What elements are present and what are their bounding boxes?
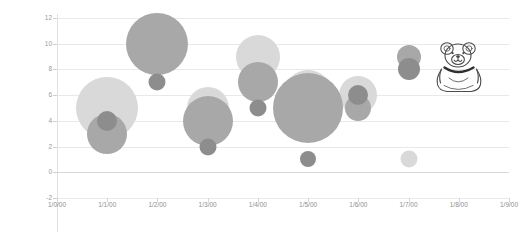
x-tick-mark-6 bbox=[358, 198, 359, 202]
x-tick-label-8: 1/8/00 bbox=[450, 202, 468, 209]
y-tick-mark-8 bbox=[53, 69, 57, 70]
y-tick-label-8: 8 bbox=[34, 66, 52, 73]
y-tick-mark-6 bbox=[53, 95, 57, 96]
x-tick-mark-2 bbox=[157, 198, 158, 202]
x-tick-mark-7 bbox=[409, 198, 410, 202]
gridline-y--2 bbox=[57, 198, 509, 199]
bubble-point bbox=[126, 13, 188, 75]
bubble-point bbox=[238, 62, 278, 102]
y-tick-mark-4 bbox=[53, 121, 57, 122]
gridline-y-12 bbox=[57, 18, 509, 19]
x-tick-label-6: 1/6/00 bbox=[349, 202, 367, 209]
x-tick-mark-1 bbox=[107, 198, 108, 202]
y-tick-mark-12 bbox=[53, 18, 57, 19]
y-tick-mark-10 bbox=[53, 44, 57, 45]
x-tick-mark-3 bbox=[208, 198, 209, 202]
x-tick-label-0: 1/0/00 bbox=[48, 202, 66, 209]
x-tick-mark-9 bbox=[509, 198, 510, 202]
y-tick-mark-2 bbox=[53, 147, 57, 148]
x-tick-label-5: 1/5/00 bbox=[299, 202, 317, 209]
x-tick-mark-4 bbox=[258, 198, 259, 202]
y-tick-mark-0 bbox=[53, 172, 57, 173]
bear-sketch-icon bbox=[428, 38, 490, 94]
x-tick-label-7: 1/7/00 bbox=[400, 202, 418, 209]
gridline-y-0 bbox=[57, 172, 509, 173]
y-tick-label-0: 0 bbox=[34, 169, 52, 176]
gridline-y-2 bbox=[57, 147, 509, 148]
y-tick-label-10: 10 bbox=[34, 40, 52, 47]
bubble-point bbox=[398, 58, 420, 80]
bubble-point bbox=[149, 74, 166, 91]
bubble-chart: 121086420-2 bbox=[0, 0, 523, 240]
y-tick-label-12: 12 bbox=[34, 15, 52, 22]
bubble-point bbox=[199, 138, 216, 155]
bubble-point bbox=[300, 151, 316, 167]
x-tick-label-3: 1/3/00 bbox=[199, 202, 217, 209]
bubble-point bbox=[249, 100, 266, 117]
x-tick-label-1: 1/1/00 bbox=[98, 202, 116, 209]
x-tick-label-2: 1/2/00 bbox=[148, 202, 166, 209]
y-tick-label-4: 4 bbox=[34, 118, 52, 125]
x-tick-label-9: 1/9/00 bbox=[500, 202, 518, 209]
bubble-point bbox=[400, 151, 417, 168]
bubble-point bbox=[348, 85, 368, 105]
y-tick-label-6: 6 bbox=[34, 92, 52, 99]
bubble-point bbox=[273, 73, 343, 143]
x-tick-label-4: 1/4/00 bbox=[249, 202, 267, 209]
y-tick-label-2: 2 bbox=[34, 143, 52, 150]
x-tick-mark-0 bbox=[57, 198, 58, 202]
x-tick-mark-5 bbox=[308, 198, 309, 202]
bubble-point bbox=[97, 111, 117, 131]
x-tick-mark-8 bbox=[459, 198, 460, 202]
